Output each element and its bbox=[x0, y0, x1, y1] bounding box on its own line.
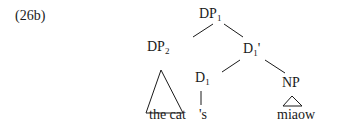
leaf-s: 's bbox=[199, 108, 207, 122]
node-np: NP bbox=[282, 76, 300, 90]
node-dp2: DP2 bbox=[147, 40, 169, 58]
node-dp1: DP1 bbox=[199, 7, 221, 25]
node-d1-bar: D1' bbox=[243, 42, 260, 60]
leaf-miaow: miaow bbox=[277, 108, 315, 122]
leaf-the-cat: the cat bbox=[149, 108, 186, 122]
node-d1: D1 bbox=[195, 71, 210, 89]
